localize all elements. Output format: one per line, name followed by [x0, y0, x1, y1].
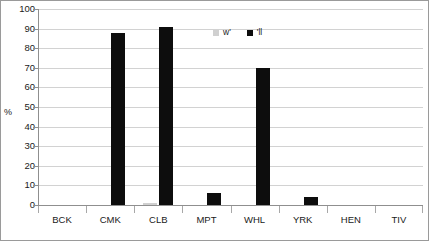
- category-group: [327, 9, 375, 205]
- x-axis-tick-label: CMK: [86, 214, 134, 226]
- y-axis-tick-mark: [33, 29, 38, 30]
- x-axis-tick-mark: [182, 206, 183, 213]
- legend-entry: 'll: [247, 28, 262, 37]
- legend-swatch-gray: [213, 30, 219, 36]
- bar: [143, 203, 157, 205]
- plot-area: [38, 9, 423, 205]
- x-axis-tick-label: CLB: [134, 214, 182, 226]
- category-group: [182, 9, 230, 205]
- y-axis-tick-mark: [33, 205, 38, 206]
- y-axis-tick-labels: 1009080706050403020100: [1, 9, 35, 205]
- x-axis-tick-mark: [231, 206, 232, 213]
- x-axis-tick-mark: [327, 206, 328, 213]
- bar: [256, 68, 270, 205]
- y-axis-tick-mark: [33, 68, 38, 69]
- x-axis-tick-mark: [422, 206, 423, 213]
- bar-chart-figure: % 1009080706050403020100 BCKCMKCLBMPTWHL…: [0, 0, 429, 241]
- x-axis-tick-label: MPT: [182, 214, 230, 226]
- x-axis-tick-mark: [86, 206, 87, 213]
- y-axis-tick-mark: [33, 9, 38, 10]
- bars-layer: [38, 9, 423, 205]
- x-axis-tick-labels: BCKCMKCLBMPTWHLYRKHENTIV: [38, 214, 423, 232]
- legend-label: 'll: [257, 28, 262, 37]
- y-axis-tick-mark: [33, 166, 38, 167]
- bar: [304, 197, 318, 205]
- legend-entry: w': [213, 28, 231, 37]
- x-axis-tick-mark: [134, 206, 135, 213]
- y-axis-tick-mark: [33, 185, 38, 186]
- y-axis-tick-mark: [33, 48, 38, 49]
- y-axis-tick-mark: [33, 87, 38, 88]
- bar: [207, 193, 221, 205]
- category-group: [279, 9, 327, 205]
- x-axis-tick-label: WHL: [231, 214, 279, 226]
- bar: [159, 27, 173, 205]
- x-axis-category-ticks: [38, 206, 423, 213]
- y-axis-line: [38, 9, 39, 206]
- y-axis-tick-mark: [33, 127, 38, 128]
- x-axis-tick-label: BCK: [38, 214, 86, 226]
- x-axis-tick-label: YRK: [279, 214, 327, 226]
- chart-legend: w''ll: [213, 28, 262, 37]
- y-axis-tick-mark: [33, 107, 38, 108]
- x-axis-tick-mark: [279, 206, 280, 213]
- bar: [111, 33, 125, 205]
- x-axis-tick-mark: [375, 206, 376, 213]
- category-group: [86, 9, 134, 205]
- category-group: [231, 9, 279, 205]
- y-axis-tick-mark: [33, 146, 38, 147]
- x-axis-tick-label: TIV: [375, 214, 423, 226]
- x-axis-tick-mark: [38, 206, 39, 213]
- category-group: [134, 9, 182, 205]
- category-group: [375, 9, 423, 205]
- category-group: [38, 9, 86, 205]
- x-axis-tick-label: HEN: [327, 214, 375, 226]
- legend-label: w': [223, 28, 231, 37]
- legend-swatch-black: [247, 30, 253, 36]
